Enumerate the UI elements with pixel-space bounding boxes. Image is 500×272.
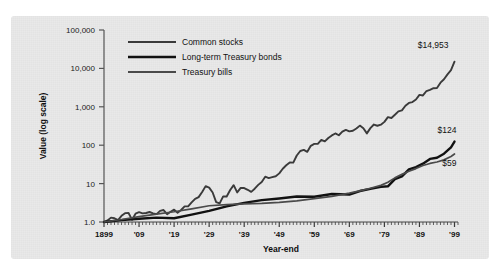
svg-text:'89: '89 [414,230,425,239]
svg-text:'69: '69 [344,230,355,239]
y-axis-title: Value (log scale) [38,93,48,160]
series-line-long-term-treasury-bonds [104,142,455,222]
series-lines-group [104,62,455,222]
legend-label-treasury-bills: Treasury bills [182,67,232,77]
svg-text:$59: $59 [442,158,456,168]
chart-plot-wrapper: 1.0101001,00010,000100,000 1899'09'19'29… [0,0,500,272]
svg-text:1,000: 1,000 [75,103,96,112]
svg-text:$124: $124 [438,125,457,135]
svg-text:'09: '09 [134,230,145,239]
figure-root: 1.0101001,00010,000100,000 1899'09'19'29… [0,0,500,272]
svg-text:'39: '39 [239,230,250,239]
x-axis-title: Year-end [263,244,299,254]
svg-text:100,000: 100,000 [66,26,95,35]
svg-text:1.0: 1.0 [84,218,96,227]
y-axis-tick-labels: 1.0101001,00010,000100,000 [66,26,95,227]
svg-text:'49: '49 [274,230,285,239]
x-axis-tick-labels: 1899'09'19'29'39'49'59'69'79'89'99 [95,230,460,239]
svg-text:'79: '79 [379,230,390,239]
svg-text:1899: 1899 [95,230,113,239]
svg-text:10,000: 10,000 [71,64,96,73]
series-line-treasury-bills [104,154,455,222]
svg-text:'19: '19 [169,230,180,239]
chart-legend: Common stocksLong-term Treasury bondsTre… [128,37,282,77]
svg-text:'29: '29 [204,230,215,239]
legend-label-long-term-treasury-bonds: Long-term Treasury bonds [182,52,282,62]
x-axis-ticks-group [104,222,458,227]
svg-text:'59: '59 [309,230,320,239]
growth-of-one-dollar-line-chart: 1.0101001,00010,000100,000 1899'09'19'29… [0,0,500,272]
svg-text:'99: '99 [449,230,460,239]
svg-text:$14,953: $14,953 [418,40,449,50]
svg-text:10: 10 [86,180,95,189]
svg-text:100: 100 [82,141,96,150]
y-axis-ticks-group [99,30,104,222]
legend-label-common-stocks: Common stocks [182,37,243,47]
